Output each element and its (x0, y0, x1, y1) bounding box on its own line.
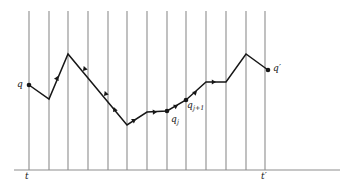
label-q-prime: q′ (273, 64, 281, 73)
trajectory-polyline (29, 54, 268, 125)
label-t: t (25, 172, 29, 181)
label-q-j: qj (171, 115, 179, 125)
gridlines-group (29, 11, 265, 170)
label-q-prime-mark: ′ (279, 63, 281, 73)
label-q-j-plus-1-subscript: j+1 (193, 104, 204, 112)
direction-arrow-8 (212, 79, 216, 84)
vertex-dot-1 (165, 109, 170, 114)
label-t-prime: t′ (261, 172, 267, 181)
label-t-text: t (25, 171, 29, 181)
path-diagram-svg (0, 0, 353, 191)
label-q-j-plus-1: qj+1 (187, 101, 204, 111)
label-q-text: q (17, 79, 23, 89)
figure-canvas: q q′ qj qj+1 t t′ (0, 0, 353, 191)
vertex-dot-0 (27, 83, 32, 88)
vertex-dots-group (27, 68, 271, 114)
direction-arrow-5 (153, 109, 157, 114)
label-q-j-subscript: j (177, 118, 179, 126)
vertex-dot-3 (266, 68, 271, 73)
label-t-prime-mark: ′ (265, 171, 267, 181)
label-q: q (17, 80, 23, 89)
